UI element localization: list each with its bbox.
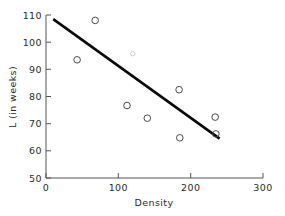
y-tick-label-100: 100 xyxy=(23,37,42,48)
data-point xyxy=(144,115,151,122)
y-tick-labels: 110 100 90 80 70 60 50 xyxy=(23,10,42,184)
y-tick-marks xyxy=(46,15,51,178)
x-tick-marks xyxy=(46,173,263,178)
data-point xyxy=(177,135,184,142)
data-point xyxy=(124,102,131,109)
x-tick-label-200: 200 xyxy=(181,182,200,193)
y-tick-label-70: 70 xyxy=(29,118,42,129)
plot-canvas: 110 100 90 80 70 60 50 0 100 200 300 Den… xyxy=(0,0,285,216)
data-point-faint xyxy=(131,52,135,56)
y-tick-label-60: 60 xyxy=(29,145,42,156)
y-axis-title: L (in weeks) xyxy=(7,66,18,128)
x-tick-label-0: 0 xyxy=(43,182,49,193)
x-tick-label-300: 300 xyxy=(253,182,272,193)
data-point xyxy=(212,114,219,121)
y-tick-label-80: 80 xyxy=(29,91,42,102)
regression-line xyxy=(53,19,219,139)
y-tick-label-110: 110 xyxy=(23,10,42,21)
data-point xyxy=(74,57,81,64)
data-point xyxy=(176,86,183,93)
x-tick-labels: 0 100 200 300 xyxy=(43,182,273,193)
x-axis-title: Density xyxy=(135,197,174,208)
y-tick-label-90: 90 xyxy=(29,64,42,75)
scatter-plot-figure: 110 100 90 80 70 60 50 0 100 200 300 Den… xyxy=(0,0,285,216)
axes-group xyxy=(46,15,263,178)
y-tick-label-50: 50 xyxy=(29,173,42,184)
data-point xyxy=(92,17,99,24)
x-tick-label-100: 100 xyxy=(109,182,128,193)
